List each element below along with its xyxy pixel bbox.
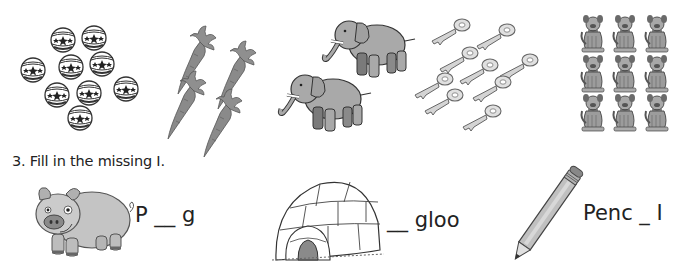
- dogs-group: [575, 8, 674, 133]
- balls-icon: [15, 20, 145, 135]
- word-igloo: __ gloo: [387, 208, 460, 232]
- elephants-icon: [265, 5, 415, 135]
- elephants-group: [265, 5, 415, 135]
- igloo-picture: [268, 172, 388, 267]
- dogs-icon: [575, 8, 674, 133]
- pencil-picture: [508, 160, 580, 275]
- igloo-icon: [268, 172, 388, 267]
- keys-icon: [415, 15, 555, 135]
- keys-group: [415, 15, 555, 135]
- carrots-icon: [160, 15, 265, 135]
- carrots-group: [160, 15, 265, 135]
- pencil-icon: [508, 160, 580, 275]
- pig-icon: [30, 182, 140, 267]
- exercise-3-instruction: 3. Fill in the missing I.: [12, 153, 165, 169]
- word-pencil: Penc _ I: [583, 201, 663, 225]
- pig-picture: [30, 182, 140, 267]
- word-pig: P __ g: [135, 203, 195, 227]
- balls-group: [15, 20, 145, 135]
